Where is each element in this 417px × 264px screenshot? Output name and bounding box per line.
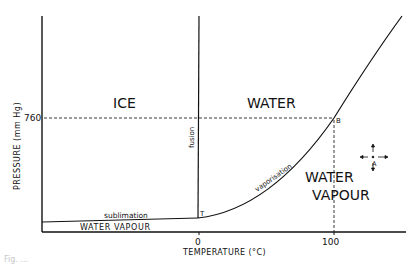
point-triple: T [199,210,205,218]
label-sublimation: sublimation [104,211,148,220]
vaporisation-curve [198,16,402,218]
y-axis-label: PRESSURE (mm Hg) [13,102,22,190]
x-axis-label: TEMPERATURE (°C) [182,248,266,257]
y-tick-760: 760 [24,113,41,123]
region-vapour-line2: VAPOUR [312,187,370,203]
fusion-curve [198,16,199,218]
region-ice: ICE [113,95,136,111]
x-tick-label-100: 100 [322,237,339,247]
point-arbitrary: A [372,160,377,168]
label-fusion: fusion [188,127,196,148]
figure-caption: Fig. ... [4,255,28,264]
x-tick-label-0: 0 [195,237,201,247]
phase-diagram: 760 PRESSURE (mm Hg) 0 100 TEMPERATURE (… [0,0,417,264]
region-vapour-strip: WATER VAPOUR [80,223,151,232]
point-boiling: B [336,117,341,125]
region-vapour-line1: WATER [305,169,354,185]
label-vaporisation: vaporisation [254,162,294,193]
region-water: WATER [247,95,296,111]
